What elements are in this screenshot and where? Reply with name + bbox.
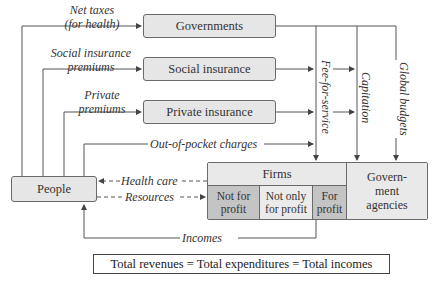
fee-for-service-label: Fee-for-service: [318, 58, 333, 136]
gov-agencies-line1: Govern-: [366, 170, 407, 184]
social-premiums-line1: Social insurance: [46, 46, 136, 60]
accounting-identity-text: Total revenues = Total expenditures = To…: [111, 257, 373, 272]
providers-block: Firms Not for profit Not only for profit…: [207, 162, 428, 220]
people-label: People: [37, 182, 71, 197]
out-of-pocket-label: Out-of-pocket charges: [150, 137, 257, 151]
private-insurance-label: Private insurance: [166, 105, 252, 120]
social-premiums-line2: premiums: [46, 60, 136, 74]
social-insurance-label: Social insurance: [168, 62, 250, 77]
private-premiums-line1: Private: [72, 88, 132, 102]
accounting-identity-box: Total revenues = Total expenditures = To…: [93, 254, 390, 274]
health-care-label: Health care: [121, 174, 178, 188]
not-only-line2: for profit: [265, 203, 307, 216]
private-insurance-box: Private insurance: [143, 100, 276, 124]
capitation-label: Capitation: [358, 70, 373, 125]
social-premiums-label: Social insurance premiums: [46, 46, 136, 74]
not-only-line1: Not only: [265, 190, 307, 203]
incomes-label: Incomes: [182, 231, 222, 245]
gov-agencies-line3: agencies: [366, 198, 407, 212]
government-agencies-cell: Govern- ment agencies: [347, 163, 427, 219]
net-taxes-line2: (for health): [52, 17, 132, 31]
private-premiums-line2: premiums: [72, 102, 132, 116]
social-insurance-box: Social insurance: [143, 57, 276, 81]
governments-label: Governments: [176, 19, 243, 34]
net-taxes-label: Net taxes (for health): [52, 3, 132, 31]
private-premiums-label: Private premiums: [72, 88, 132, 116]
people-box: People: [11, 176, 97, 202]
not-for-profit-cell: Not for profit: [208, 186, 260, 219]
not-for-profit-line2: profit: [217, 203, 251, 216]
for-profit-line1: For: [317, 190, 343, 203]
gov-agencies-line2: ment: [366, 184, 407, 198]
net-taxes-line1: Net taxes: [52, 3, 132, 17]
for-profit-line2: profit: [317, 203, 343, 216]
firms-header: Firms: [208, 163, 347, 186]
not-only-for-profit-cell: Not only for profit: [260, 186, 313, 219]
governments-box: Governments: [143, 14, 276, 38]
not-for-profit-line1: Not for: [217, 190, 251, 203]
resources-label: Resources: [125, 190, 174, 204]
for-profit-cell: For profit: [313, 186, 347, 219]
global-budgets-label: Global budgets: [396, 60, 411, 138]
